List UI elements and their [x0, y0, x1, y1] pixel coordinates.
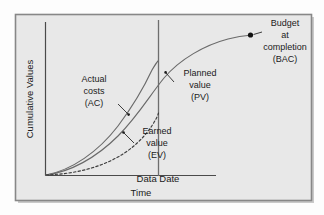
- evm-chart-svg: Cumulative Values Data Date Time Actual …: [0, 0, 324, 215]
- data-date-label: Data Date: [137, 173, 180, 184]
- y-axis-label: Cumulative Values: [24, 60, 35, 139]
- planned-value-leader-dot: [164, 71, 167, 74]
- earned-value-line1: Earned: [142, 126, 171, 136]
- bac-line2: at: [281, 30, 289, 40]
- bac-line1: Budget: [271, 18, 300, 28]
- planned-value-line2: value: [189, 80, 211, 90]
- bac-line3: completion: [263, 42, 307, 52]
- planned-value-line3: (PV): [191, 92, 209, 102]
- actual-costs-line1: Actual: [81, 74, 106, 84]
- earned-value-line3: (EV): [148, 150, 166, 160]
- actual-costs-line3: (AC): [85, 98, 104, 108]
- earned-value-line2: value: [146, 138, 168, 148]
- earned-value-leader-dot: [122, 131, 125, 134]
- x-axis-label: Time: [131, 187, 152, 198]
- evm-chart-figure: Cumulative Values Data Date Time Actual …: [0, 0, 324, 215]
- planned-value-line1: Planned: [183, 68, 216, 78]
- bac-line4: (BAC): [273, 54, 298, 64]
- annotation-actual-costs: Actual costs (AC): [81, 74, 106, 108]
- actual-costs-line2: costs: [83, 86, 105, 96]
- actual-costs-leader-dot: [127, 113, 130, 116]
- bac-point-marker: [248, 32, 253, 37]
